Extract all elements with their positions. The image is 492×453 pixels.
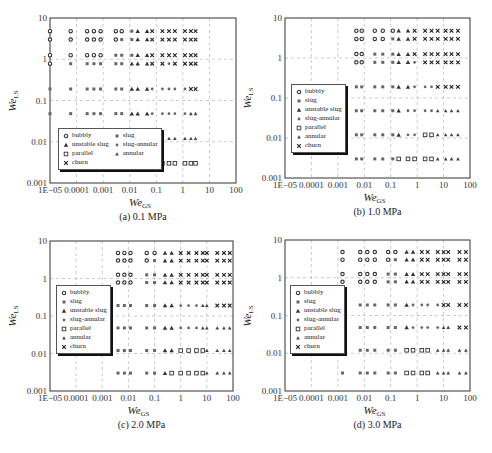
unstable-slug-marker-icon: [411, 272, 415, 276]
slug-annular-marker-icon: [426, 326, 429, 329]
unstable-slug-marker-icon: [404, 258, 408, 262]
slug-marker-icon: [359, 371, 362, 374]
churn-marker-icon: [426, 272, 430, 276]
y-axis-label: WeLS: [241, 305, 255, 326]
churn-marker-icon: [458, 280, 462, 284]
bubbly-marker-icon: [366, 272, 369, 275]
bubbly-marker-icon: [373, 280, 376, 283]
bubbly-marker-icon: [373, 250, 376, 253]
bubbly-marker-icon: [341, 258, 344, 261]
churn-marker-icon: [420, 272, 424, 276]
bubbly-marker-icon: [358, 258, 361, 261]
legend-item-slug-annular: slug-annular: [294, 315, 341, 324]
parallel-marker-icon: [420, 348, 424, 352]
chart-panel-d: 1E−050.00010.0010.010.11101000.0010.010.…: [0, 0, 492, 453]
legend-item-churn: churn: [294, 342, 341, 351]
slug-marker-icon: [366, 303, 369, 306]
churn-marker-icon: [464, 272, 468, 276]
churn-marker-icon: [426, 250, 430, 254]
annular-marker-icon: [464, 371, 468, 374]
y-tick-label: 0.001: [262, 386, 282, 396]
legend-label: slug-annular: [304, 315, 339, 324]
churn-marker-icon: [446, 303, 450, 307]
churn-marker-icon: [458, 258, 462, 262]
unstable-slug-marker-icon: [404, 280, 408, 284]
annular-marker-icon: [458, 348, 462, 351]
churn-marker-icon: [420, 250, 424, 254]
annular-marker-icon: [446, 348, 450, 351]
churn-marker-icon: [464, 303, 468, 307]
parallel-marker-icon: [296, 327, 300, 331]
slug-marker-icon: [387, 273, 390, 276]
churn-marker-icon: [458, 326, 462, 330]
churn-marker-icon: [436, 258, 440, 262]
legend-item-annular: annular: [294, 333, 341, 342]
bubbly-marker-icon: [341, 250, 344, 253]
slug-marker-icon: [373, 326, 376, 329]
slug-annular-marker-icon: [297, 318, 300, 321]
bubbly-marker-icon: [366, 280, 369, 283]
slug-marker-icon: [341, 371, 344, 374]
churn-marker-icon: [464, 258, 468, 262]
unstable-slug-marker-icon: [404, 325, 408, 329]
legend-item-unstable-slug: unstable slug: [294, 306, 341, 315]
legend-item-parallel: parallel: [294, 324, 341, 333]
unstable-slug-marker-icon: [411, 258, 415, 262]
x-tick-label: 100: [463, 393, 477, 403]
churn-marker-icon: [464, 250, 468, 254]
slug-marker-icon: [373, 371, 376, 374]
bubbly-marker-icon: [341, 272, 344, 275]
slug-marker-icon: [359, 303, 362, 306]
slug-marker-icon: [394, 280, 397, 283]
parallel-marker-icon: [426, 371, 430, 375]
legend-label: parallel: [304, 324, 325, 333]
slug-marker-icon: [394, 303, 397, 306]
legend-label: slug: [304, 297, 316, 306]
bubbly-marker-icon: [366, 258, 369, 261]
y-tick-label: 10: [273, 235, 283, 245]
legend-label: bubbly: [304, 288, 323, 297]
bubbly-marker-icon: [341, 280, 344, 283]
x-tick-label: 1: [415, 393, 420, 403]
annular-marker-icon: [464, 348, 468, 351]
slug-marker-icon: [387, 303, 390, 306]
slug-marker-icon: [394, 371, 397, 374]
unstable-slug-marker-icon: [404, 272, 408, 276]
x-tick-label: 0.001: [328, 393, 348, 403]
slug-annular-marker-icon: [420, 304, 423, 307]
annular-marker-icon: [458, 371, 462, 374]
bubbly-marker-icon: [386, 250, 389, 253]
parallel-marker-icon: [411, 348, 415, 352]
churn-marker-icon: [420, 258, 424, 262]
slug-marker-icon: [387, 371, 390, 374]
churn-marker-icon: [446, 280, 450, 284]
annular-marker-icon: [442, 371, 446, 374]
bubbly-marker-icon: [386, 258, 389, 261]
x-tick-label: 0.01: [356, 393, 372, 403]
bubbly-marker-icon: [358, 250, 361, 253]
slug-marker-icon: [387, 280, 390, 283]
legend-label: annular: [304, 333, 325, 342]
slug-annular-marker-icon: [436, 304, 439, 307]
bubbly-marker-icon: [366, 250, 369, 253]
slug-marker-icon: [394, 349, 397, 352]
slug-annular-marker-icon: [412, 304, 415, 307]
legend-label: churn: [304, 342, 320, 351]
slug-marker-icon: [366, 349, 369, 352]
legend: bubblyslugunstable slugslug-annularparal…: [290, 285, 345, 354]
bubbly-marker-icon: [296, 291, 299, 294]
panel-caption: (d) 3.0 MPa: [348, 419, 408, 430]
unstable-slug-marker-icon: [404, 303, 408, 307]
bubbly-marker-icon: [358, 272, 361, 275]
x-tick-label: 0.0001: [299, 393, 324, 403]
x-tick-label: 10: [439, 393, 449, 403]
plot-area: 1E−050.00010.0010.010.11101000.0010.010.…: [0, 0, 492, 453]
x-tick-label: 0.1: [385, 393, 396, 403]
churn-marker-icon: [446, 250, 450, 254]
bubbly-marker-icon: [394, 250, 397, 253]
slug-marker-icon: [394, 326, 397, 329]
churn-marker-icon: [436, 280, 440, 284]
churn-marker-icon: [458, 272, 462, 276]
churn-marker-icon: [436, 272, 440, 276]
slug-marker-icon: [373, 349, 376, 352]
